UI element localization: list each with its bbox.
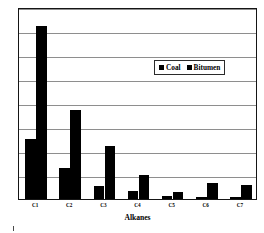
bar-group <box>128 9 150 199</box>
x-tick-c2: C2 <box>59 202 79 208</box>
scan-artifact-mark <box>13 226 14 231</box>
x-tick-c6: C6 <box>196 202 216 208</box>
bar-group <box>230 9 252 199</box>
legend-item-coal: Coal <box>159 63 181 72</box>
bar-coal-c4 <box>128 191 139 199</box>
bar-bitumen-c1 <box>36 26 47 199</box>
legend-item-bitumen: Bitumen <box>187 63 221 72</box>
plot-area <box>18 8 257 200</box>
bar-bitumen-c2 <box>70 110 81 199</box>
bar-coal-c6 <box>196 197 207 199</box>
bar-chart-figure: Relative Partial Pressure Per Gram Coal … <box>0 0 264 233</box>
x-tick-c3: C3 <box>93 202 113 208</box>
bars-layer <box>19 9 256 199</box>
bar-group <box>59 9 81 199</box>
x-tick-c7: C7 <box>230 202 250 208</box>
x-tick-c4: C4 <box>128 202 148 208</box>
chart-legend: Coal Bitumen <box>154 60 225 75</box>
x-axis-tick-labels: C1C2C3C4C5C6C7 <box>18 202 257 212</box>
x-tick-c1: C1 <box>25 202 45 208</box>
bar-bitumen-c6 <box>207 183 218 199</box>
bar-bitumen-c5 <box>173 192 184 199</box>
bar-bitumen-c3 <box>105 146 116 199</box>
bar-coal-c5 <box>162 196 173 199</box>
bar-coal-c7 <box>230 197 241 199</box>
bar-coal-c2 <box>59 168 70 199</box>
bar-group <box>196 9 218 199</box>
legend-label-bitumen: Bitumen <box>194 63 221 72</box>
bar-bitumen-c7 <box>241 185 252 199</box>
bar-coal-c3 <box>94 186 105 199</box>
bar-group <box>25 9 47 199</box>
legend-swatch-coal-icon <box>159 65 164 70</box>
bar-group <box>162 9 184 199</box>
bar-group <box>94 9 116 199</box>
bar-coal-c1 <box>25 139 36 199</box>
legend-swatch-bitumen-icon <box>187 65 192 70</box>
x-tick-c5: C5 <box>162 202 182 208</box>
legend-label-coal: Coal <box>166 63 181 72</box>
x-axis-title: Alkanes <box>18 213 257 222</box>
bar-bitumen-c4 <box>139 175 150 199</box>
